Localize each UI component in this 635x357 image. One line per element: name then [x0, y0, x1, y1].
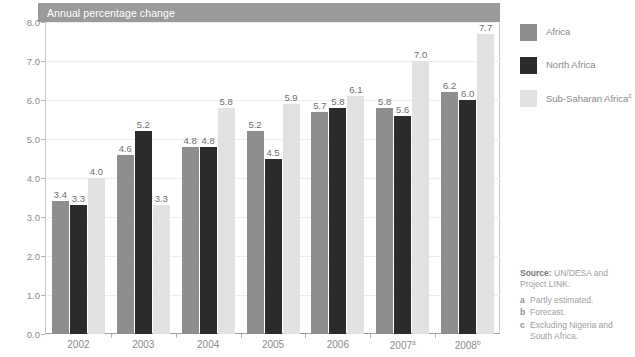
bar-north-africa-2003 [135, 131, 152, 334]
y-axis-tick-label: 1.0 [27, 290, 40, 301]
bar-north-africa-2004 [200, 147, 217, 334]
y-axis-tick-label: 3.0 [27, 212, 40, 223]
bar-value-label: 4.8 [184, 135, 197, 146]
bar-africa-2007 [376, 108, 393, 334]
x-axis-tick-marker: a [412, 339, 416, 346]
bar-value-label: 3.4 [54, 189, 67, 200]
legend: AfricaNorth AfricaSub-Saharan Africac [520, 24, 632, 123]
bar-africa-2008 [441, 92, 458, 334]
y-axis-tick-mark [41, 139, 45, 140]
bar-value-label: 5.2 [248, 119, 261, 130]
x-axis-tick-mark [370, 334, 371, 338]
y-axis-tick-mark [41, 217, 45, 218]
bar-value-label: 5.8 [220, 96, 233, 107]
x-axis-tick-mark [305, 334, 306, 338]
y-axis-tick-label: 8.0 [27, 17, 40, 28]
x-axis-tick-mark [241, 334, 242, 338]
footnote-marker: c [520, 320, 530, 343]
source-line: Source: UN/DESA and Project LINK. [520, 268, 634, 291]
y-axis-tick-mark [41, 256, 45, 257]
bar-value-label: 5.6 [396, 104, 409, 115]
bar-north-africa-2006 [329, 108, 346, 334]
y-axis-tick-mark [41, 334, 45, 335]
legend-item-subsaharan[interactable]: Sub-Saharan Africac [520, 90, 632, 107]
y-axis-tick-mark [41, 100, 45, 101]
footnote-b: bForecast. [520, 307, 634, 318]
y-axis-tick-label: 7.0 [27, 56, 40, 67]
bar-value-label: 4.5 [266, 147, 279, 158]
bar-group: 6.26.07.7 [441, 22, 494, 334]
legend-swatch-icon [520, 90, 537, 107]
bar-africa-2004 [182, 147, 199, 334]
y-axis-tick-mark [41, 178, 45, 179]
chart-panel: Annual percentage change 0.01.02.03.04.0… [0, 0, 508, 357]
bar-value-label: 4.0 [90, 166, 103, 177]
chart-title-bar: Annual percentage change [38, 3, 500, 22]
footnote-text: Forecast. [530, 307, 634, 318]
legend-swatch-icon [520, 57, 537, 74]
footnote-list: aPartly estimated.bForecast.cExcluding N… [520, 295, 634, 343]
plot-area: 3.43.34.04.65.23.34.84.85.85.24.55.95.75… [46, 22, 500, 334]
bar-sub-saharan-africa-2002 [88, 178, 105, 334]
bar-value-label: 6.0 [461, 88, 474, 99]
bar-value-label: 4.6 [119, 143, 132, 154]
bar-sub-saharan-africa-2003 [153, 205, 170, 334]
bar-value-label: 3.3 [155, 193, 168, 204]
bar-sub-saharan-africa-2005 [283, 104, 300, 334]
bar-africa-2006 [311, 112, 328, 334]
x-axis-tick-marker: b [477, 339, 481, 346]
bar-value-label: 4.8 [202, 135, 215, 146]
y-axis-tick-label: 5.0 [27, 134, 40, 145]
y-axis-tick-label: 4.0 [27, 173, 40, 184]
x-axis-tick-label: 2008b [455, 339, 481, 351]
x-axis-tick-label: 2007a [390, 339, 416, 351]
bar-group: 4.65.23.3 [117, 22, 170, 334]
bar-value-label: 7.7 [479, 22, 492, 33]
x-axis-tick-label: 2005 [262, 339, 284, 350]
x-axis-tick-mark [435, 334, 436, 338]
bar-sub-saharan-africa-2004 [218, 108, 235, 334]
y-axis-tick-label: 2.0 [27, 251, 40, 262]
y-axis-tick-mark [41, 61, 45, 62]
footnote-marker: b [520, 307, 530, 318]
bar-group: 5.85.67.0 [376, 22, 429, 334]
bar-africa-2005 [247, 131, 264, 334]
bar-north-africa-2007 [394, 116, 411, 334]
y-axis-tick-label: 6.0 [27, 95, 40, 106]
bar-sub-saharan-africa-2008 [477, 34, 494, 334]
bar-value-label: 3.3 [72, 193, 85, 204]
x-axis-tick-label: 2004 [197, 339, 219, 350]
source-label: Source: [520, 268, 552, 278]
bar-group: 4.84.85.8 [182, 22, 235, 334]
bar-north-africa-2002 [70, 205, 87, 334]
bar-sub-saharan-africa-2006 [347, 96, 364, 334]
y-axis-tick-mark [41, 22, 45, 23]
legend-item-north-africa[interactable]: North Africa [520, 57, 632, 74]
footnote-a: aPartly estimated. [520, 295, 634, 306]
x-axis-tick-mark [111, 334, 112, 338]
bar-value-label: 7.0 [414, 49, 427, 60]
bar-africa-2003 [117, 155, 134, 334]
source-block: Source: UN/DESA and Project LINK. aPartl… [520, 268, 634, 344]
bar-sub-saharan-africa-2007 [412, 61, 429, 334]
bar-group: 5.24.55.9 [247, 22, 300, 334]
footnote-c: cExcluding Nigeria and South Africa. [520, 320, 634, 343]
bar-value-label: 5.8 [331, 96, 344, 107]
bar-value-label: 5.8 [378, 96, 391, 107]
legend-item-africa[interactable]: Africa [520, 24, 632, 41]
footnote-marker: a [520, 295, 530, 306]
bar-group: 5.75.86.1 [311, 22, 364, 334]
bar-africa-2002 [52, 201, 69, 334]
legend-swatch-icon [520, 24, 537, 41]
y-axis-tick-label: 0.0 [27, 329, 40, 340]
bar-value-label: 5.9 [284, 92, 297, 103]
bar-value-label: 6.1 [349, 84, 362, 95]
y-axis: 0.01.02.03.04.05.06.07.08.0 [0, 22, 40, 334]
bar-value-label: 6.2 [443, 80, 456, 91]
footnote-text: Partly estimated. [530, 295, 634, 306]
legend-item-label: Africa [546, 24, 570, 38]
chart-title: Annual percentage change [38, 7, 175, 19]
legend-footnote-marker: c [628, 92, 631, 99]
bar-north-africa-2008 [459, 100, 476, 334]
x-axis-tick-label: 2006 [327, 339, 349, 350]
